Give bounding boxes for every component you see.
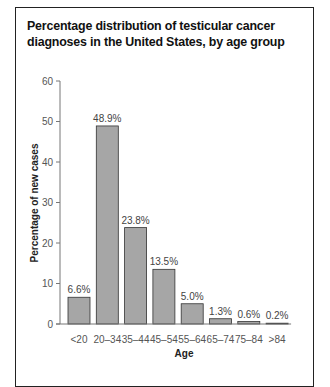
y-axis: 0102030405060 bbox=[42, 76, 60, 330]
x-tick-label: 65–74 bbox=[207, 334, 235, 345]
data-label: 13.5% bbox=[150, 256, 178, 267]
data-label: 0.2% bbox=[266, 310, 289, 321]
data-label: 23.8% bbox=[121, 215, 149, 226]
data-label: 48.9% bbox=[93, 113, 121, 124]
bar bbox=[96, 126, 118, 324]
data-label: 1.3% bbox=[209, 306, 232, 317]
x-tick-label: >84 bbox=[269, 334, 286, 345]
x-tick-label: 75–84 bbox=[235, 334, 263, 345]
data-label: 6.6% bbox=[68, 284, 91, 295]
y-axis-label: Percentage of new cases bbox=[29, 143, 40, 262]
bar bbox=[210, 319, 232, 324]
x-tick-label: 55–64 bbox=[178, 334, 206, 345]
y-tick-label: 0 bbox=[47, 319, 53, 330]
x-tick-label: 45–54 bbox=[150, 334, 178, 345]
bar bbox=[153, 269, 175, 324]
bar bbox=[68, 297, 90, 324]
y-tick-label: 60 bbox=[42, 76, 54, 87]
x-axis: <2020–3435–4445–5455–6465–7475–84>84 bbox=[56, 324, 291, 345]
y-tick-label: 30 bbox=[42, 197, 54, 208]
data-label: 5.0% bbox=[181, 291, 204, 302]
y-tick-label: 20 bbox=[42, 238, 54, 249]
y-tick-label: 10 bbox=[42, 278, 54, 289]
bars: 6.6%48.9%23.8%13.5%5.0%1.3%0.6%0.2% bbox=[68, 113, 289, 324]
y-tick-label: 50 bbox=[42, 116, 54, 127]
x-tick-label: <20 bbox=[71, 334, 88, 345]
bar bbox=[181, 304, 203, 324]
y-tick-label: 40 bbox=[42, 157, 54, 168]
x-tick-label: 35–44 bbox=[122, 334, 150, 345]
data-label: 0.6% bbox=[237, 309, 260, 320]
x-axis-label: Age bbox=[175, 348, 194, 359]
bar bbox=[125, 228, 147, 324]
x-tick-label: 20–34 bbox=[93, 334, 121, 345]
